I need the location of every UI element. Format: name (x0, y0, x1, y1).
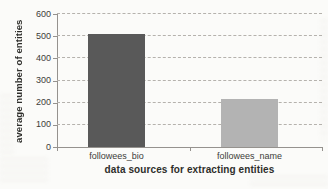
x-axis-title: data sources for extracting entities (57, 163, 322, 176)
y-tick-label: 500 (23, 31, 51, 42)
y-tick-label: 200 (23, 97, 51, 108)
plot-area: 0100200300400500600followees_biofollowee… (0, 0, 328, 189)
x-tick-label-followees_name: followees_name (195, 151, 305, 162)
x-tick-mark (57, 147, 58, 151)
y-tick-label: 300 (23, 75, 51, 86)
y-tick-mark (53, 58, 58, 59)
y-tick-label: 0 (23, 142, 51, 153)
y-tick-mark (53, 81, 58, 82)
bar-chart-figure: average number of entities 0100200300400… (0, 0, 328, 189)
y-tick-mark (53, 103, 58, 104)
gridline-600 (57, 13, 322, 14)
y-tick-mark (53, 125, 58, 126)
bar-followees_bio (88, 34, 145, 147)
y-tick-label: 600 (23, 9, 51, 20)
bar-followees_name (221, 99, 278, 147)
x-tick-mark (322, 147, 323, 151)
y-tick-label: 400 (23, 53, 51, 64)
y-tick-mark (53, 36, 58, 37)
x-tick-label-followees_bio: followees_bio (62, 151, 172, 162)
y-tick-mark (53, 14, 58, 15)
x-tick-mark (190, 147, 191, 151)
y-tick-label: 100 (23, 119, 51, 130)
